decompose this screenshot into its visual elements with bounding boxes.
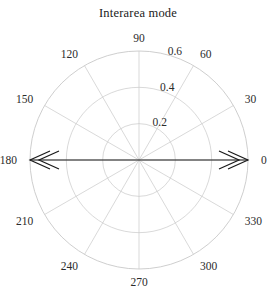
angle-tick-label: 60 [200,48,212,60]
polar-grid-spoke [139,106,233,161]
angle-tick-label: 120 [61,48,79,60]
angle-tick-label: 240 [61,260,79,272]
radial-tick-label: 0.6 [168,45,183,57]
polar-chart-figure: Interarea mode 0306090120150180210240270… [0,0,276,299]
polar-plot-canvas: 0306090120150180210240270300330 0.20.40.… [0,0,276,299]
angle-tick-label: 30 [245,93,257,105]
polar-grid-spoke [139,160,194,254]
polar-grid-spoke [139,160,233,215]
polar-grid-spoke [85,160,140,254]
polar-grid-spoke [85,66,140,160]
angle-tick-label: 210 [16,215,34,227]
radial-tick-label: 0.2 [153,116,168,128]
radial-tick-label: 0.4 [160,81,175,93]
angle-tick-label: 300 [200,260,218,272]
angle-tick-label: 150 [16,93,34,105]
polar-grid-spoke [45,106,139,161]
angle-tick-label: 0 [261,154,267,166]
angle-tick-label: 180 [0,154,17,166]
angle-tick-label: 270 [130,276,148,288]
polar-grid-spoke [139,66,194,160]
polar-grid-spoke [45,160,139,215]
angle-tick-label: 90 [133,32,145,44]
angle-tick-label: 330 [245,215,262,227]
